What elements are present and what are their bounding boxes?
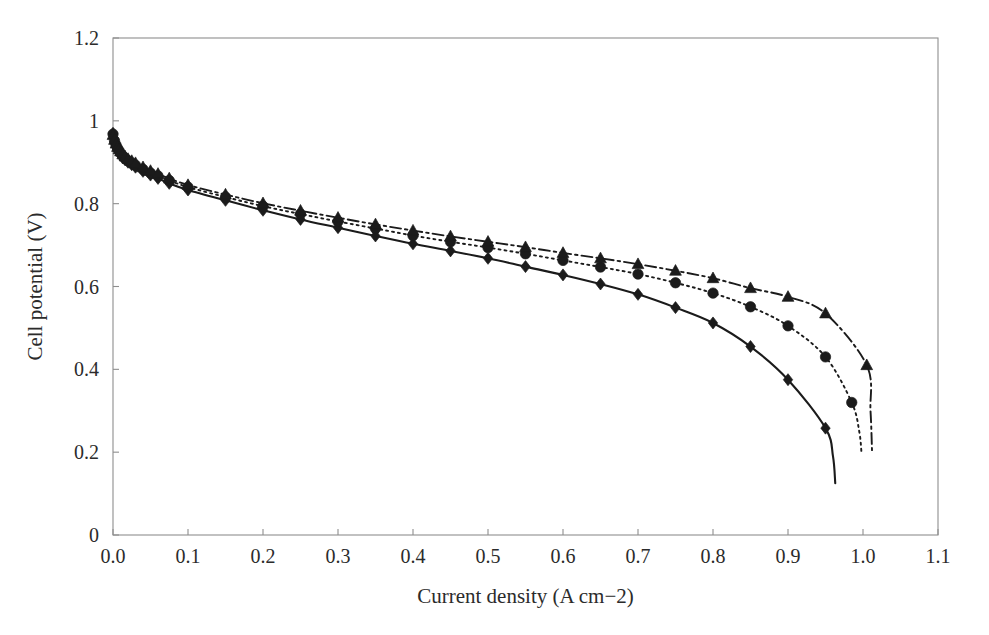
plot-frame <box>113 38 938 535</box>
data-point-marker <box>445 230 457 241</box>
series-line <box>113 133 835 483</box>
y-tick-label: 1.2 <box>74 27 99 49</box>
x-axis-title: Current density (A cm−2) <box>417 584 634 608</box>
x-tick-label: 0.5 <box>476 545 501 567</box>
data-point-marker <box>633 269 643 279</box>
data-point-marker <box>407 224 419 235</box>
x-tick-label: 1.1 <box>926 545 951 567</box>
data-point-marker <box>782 291 794 302</box>
y-tick-label: 0.2 <box>74 441 99 463</box>
y-axis-ticks: 00.20.40.60.811.2 <box>74 27 119 546</box>
data-point-marker <box>295 205 307 216</box>
y-tick-label: 0.8 <box>74 193 99 215</box>
x-tick-label: 0.7 <box>626 545 651 567</box>
data-point-marker <box>847 397 857 407</box>
data-point-marker <box>558 269 567 281</box>
data-point-marker <box>745 302 755 312</box>
data-series-group <box>107 127 873 483</box>
data-point-marker <box>820 307 832 318</box>
y-tick-label: 0.6 <box>74 276 99 298</box>
data-point-marker <box>596 278 605 290</box>
data-point-marker <box>633 288 642 300</box>
y-tick-label: 0 <box>89 524 99 546</box>
y-axis-title: Cell potential (V) <box>23 212 47 360</box>
data-point-marker <box>671 302 680 314</box>
plot-border <box>113 38 938 535</box>
chart-canvas: 0.00.10.20.30.40.50.60.70.80.91.01.1 00.… <box>0 0 989 635</box>
series-diamond <box>108 127 835 483</box>
series-triangle <box>107 129 873 450</box>
data-point-marker <box>483 252 492 264</box>
data-point-marker <box>746 341 755 353</box>
x-tick-label: 0.2 <box>251 545 276 567</box>
series-line <box>113 135 872 450</box>
y-tick-label: 0.4 <box>74 358 99 380</box>
x-tick-label: 0.3 <box>326 545 351 567</box>
data-point-marker <box>595 262 605 272</box>
data-point-marker <box>670 278 680 288</box>
y-tick-label: 1 <box>89 110 99 132</box>
x-tick-label: 0.4 <box>401 545 426 567</box>
data-point-marker <box>708 288 718 298</box>
x-tick-label: 0.0 <box>101 545 126 567</box>
series-line <box>113 134 862 453</box>
x-tick-label: 0.9 <box>776 545 801 567</box>
x-tick-label: 1.0 <box>851 545 876 567</box>
x-tick-label: 0.1 <box>176 545 201 567</box>
data-point-marker <box>557 247 569 258</box>
x-tick-label: 0.8 <box>701 545 726 567</box>
data-point-marker <box>861 359 873 370</box>
data-point-marker <box>708 317 717 329</box>
figure-polarization-curve: 0.00.10.20.30.40.50.60.70.80.91.01.1 00.… <box>0 0 989 635</box>
data-point-marker <box>521 261 530 273</box>
data-point-marker <box>820 352 830 362</box>
x-tick-label: 0.6 <box>551 545 576 567</box>
data-point-marker <box>783 321 793 331</box>
